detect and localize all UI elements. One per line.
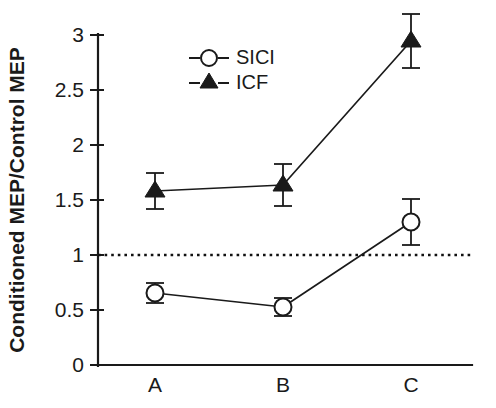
data-point-icf-a[interactable] <box>145 181 165 197</box>
y-tick-label-1: 1 <box>72 243 84 266</box>
y-tick-label-0: 0 <box>72 353 84 376</box>
data-point-sici-a[interactable] <box>147 285 164 302</box>
data-point-sici-b[interactable] <box>275 299 292 316</box>
legend-entry-sici[interactable]: SICI <box>189 46 275 68</box>
legend-entry-icf[interactable]: ICF <box>189 71 268 93</box>
y-tick-label-2: 2 <box>72 133 84 156</box>
x-tick-label-a: A <box>148 373 162 396</box>
x-tick-label-c: C <box>403 373 418 396</box>
legend-marker-open-circle-icon <box>201 50 217 66</box>
y-tick-label-3: 3 <box>72 23 84 46</box>
legend: SICI ICF <box>189 46 275 93</box>
data-point-icf-c[interactable] <box>401 31 421 47</box>
y-tick-label-0_5: 0.5 <box>55 298 84 321</box>
x-tick-label-b: B <box>276 373 290 396</box>
chart-figure: Conditioned MEP/Control MEP 3 2.5 2 1.5 … <box>0 0 496 408</box>
legend-marker-filled-triangle-icon <box>200 73 218 88</box>
legend-label-icf: ICF <box>236 71 268 93</box>
data-point-sici-c[interactable] <box>403 214 420 231</box>
y-tick-label-2_5: 2.5 <box>55 78 84 101</box>
line-chart-canvas: Conditioned MEP/Control MEP 3 2.5 2 1.5 … <box>0 0 496 408</box>
legend-label-sici: SICI <box>236 46 275 68</box>
y-tick-label-1_5: 1.5 <box>55 188 84 211</box>
y-axis-title: Conditioned MEP/Control MEP <box>5 47 28 353</box>
series-line-sici <box>155 222 411 307</box>
